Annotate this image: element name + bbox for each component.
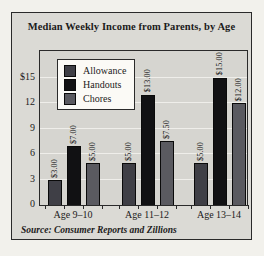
legend-label: Handouts (83, 78, 121, 91)
chart-panel: Median Weekly Income from Parents, by Ag… (11, 12, 252, 240)
y-axis: 036912$15 (12, 50, 37, 204)
y-tick-label: 9 (30, 121, 35, 135)
bar-chores (160, 141, 174, 205)
x-axis-labels: Age 9–10Age 11–12Age 13–14 (39, 209, 249, 223)
bar-handouts (67, 146, 81, 206)
bar-allowance (194, 163, 208, 206)
bar-value-label: $12.00 (233, 78, 245, 101)
bar-value-label: $5.00 (87, 142, 99, 161)
legend-item: Chores (64, 92, 126, 105)
x-category-label: Age 11–12 (107, 209, 187, 220)
legend-swatch-allowance (64, 65, 76, 77)
legend-label: Chores (83, 92, 111, 105)
bar-value-label: $15.00 (214, 52, 226, 75)
legend-item: Allowance (64, 64, 126, 77)
source-note: Source: Consumer Reports and Zillions (21, 225, 177, 235)
x-category-label: Age 9–10 (33, 209, 113, 220)
y-tick-label: 6 (30, 146, 35, 160)
x-category-label: Age 13–14 (179, 209, 259, 220)
bar-value-label: $5.00 (195, 142, 207, 161)
legend-swatch-chores (64, 93, 76, 105)
chart-figure: Median Weekly Income from Parents, by Ag… (0, 0, 264, 256)
plot-area: AllowanceHandoutsChores $3.00$7.00$5.00$… (39, 50, 248, 206)
bar-value-label: $7.50 (161, 120, 173, 139)
bar-chores (232, 103, 246, 205)
bar-value-label: $7.00 (68, 125, 80, 144)
legend: AllowanceHandoutsChores (57, 59, 135, 110)
bar-allowance (122, 163, 136, 206)
bar-handouts (141, 95, 155, 206)
y-tick-label: 12 (25, 95, 35, 109)
legend-swatch-handouts (64, 79, 76, 91)
y-tick-label: 3 (30, 172, 35, 186)
bar-chores (86, 163, 100, 206)
legend-label: Allowance (83, 64, 126, 77)
bar-value-label: $3.00 (49, 159, 61, 178)
bar-value-label: $5.00 (123, 142, 135, 161)
legend-item: Handouts (64, 78, 126, 91)
bar-allowance (48, 180, 62, 206)
chart-title: Median Weekly Income from Parents, by Ag… (12, 21, 251, 32)
y-tick-label: $15 (20, 70, 35, 84)
bar-value-label: $13.00 (142, 69, 154, 92)
bar-handouts (213, 78, 227, 206)
